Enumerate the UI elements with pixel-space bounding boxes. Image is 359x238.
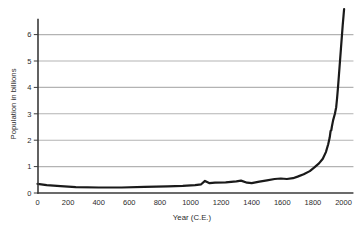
x-tick-label: 800 — [154, 198, 167, 207]
y-tick-label: 0 — [27, 189, 31, 198]
y-tick-label: 5 — [27, 57, 31, 66]
chart-svg: 0123456 02004006008001000120014001600180… — [0, 0, 359, 238]
x-tick-labels-group: 0200400600800100012001400160018002000 — [35, 198, 351, 207]
population-line — [38, 9, 345, 188]
y-tick-label: 4 — [27, 83, 31, 92]
x-tick-label: 0 — [35, 198, 39, 207]
x-tick-label: 1600 — [274, 198, 291, 207]
x-tick-label: 1800 — [305, 198, 322, 207]
population-growth-chart: 0123456 02004006008001000120014001600180… — [0, 0, 359, 238]
x-tick-label: 1000 — [182, 198, 199, 207]
y-tick-labels-group: 0123456 — [27, 30, 31, 197]
y-tick-label: 6 — [27, 30, 31, 39]
x-tick-label: 2000 — [335, 198, 352, 207]
y-tick-label: 3 — [27, 110, 31, 119]
y-axis-title: Population in billions — [9, 68, 18, 139]
x-tick-label: 1400 — [243, 198, 260, 207]
y-tick-label: 2 — [27, 136, 31, 145]
x-axis-title: Year (C.E.) — [173, 213, 212, 222]
x-tick-label: 400 — [92, 198, 105, 207]
x-tick-label: 200 — [62, 198, 75, 207]
y-tick-label: 1 — [27, 162, 31, 171]
x-tick-label: 600 — [123, 198, 136, 207]
x-tick-label: 1200 — [213, 198, 230, 207]
gridlines-group — [38, 35, 353, 167]
